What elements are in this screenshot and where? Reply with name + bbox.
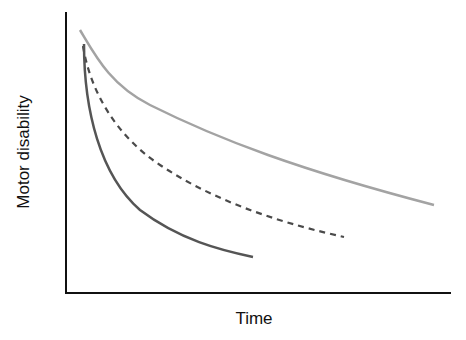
y-axis-label: Motor disability — [14, 95, 34, 208]
series-fast-decline — [84, 44, 253, 257]
x-axis-label: Time — [0, 309, 466, 329]
series-intermediate-decline — [83, 46, 344, 237]
series-slow-decline — [80, 30, 434, 205]
chart-canvas — [0, 0, 466, 340]
